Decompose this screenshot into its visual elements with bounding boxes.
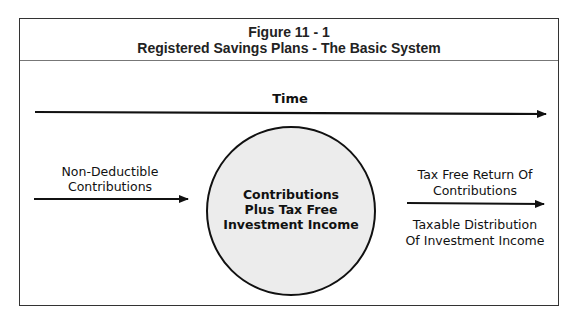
circle-label-line3: Investment Income [211,217,371,233]
outflow-below-line1: Taxable Distribution [400,217,550,233]
time-arrow [35,112,546,114]
outflow-below-line2: Of Investment Income [400,233,550,249]
outflow-above-line2: Contributions [400,183,550,199]
outflow-arrow [407,203,544,204]
time-label: Time [250,91,330,107]
inflow-label-line1: Non-Deductible [30,164,190,180]
inflow-label-line2: Contributions [30,179,190,195]
circle-label-line1: Contributions [211,187,371,203]
diagram-graphics [0,0,578,323]
circle-label-line2: Plus Tax Free [211,202,371,218]
outflow-above-line1: Tax Free Return Of [400,167,550,183]
